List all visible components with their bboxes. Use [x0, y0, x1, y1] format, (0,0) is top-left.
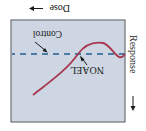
plot-area — [11, 20, 125, 122]
control-label: Control — [33, 29, 62, 39]
noael-label: NOAEL — [70, 65, 104, 76]
response-axis-label: Response — [128, 35, 139, 74]
response-arrowhead-icon — [131, 106, 136, 111]
dose-arrowhead-icon — [29, 6, 34, 11]
dose-axis-label: Dose — [49, 3, 70, 14]
dose-response-diagram: NOAEL Control Dose Response — [0, 0, 146, 131]
